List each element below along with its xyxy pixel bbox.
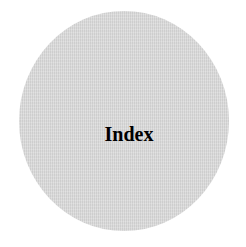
index-circle-badge: Index xyxy=(19,11,229,231)
index-label: Index xyxy=(105,123,154,146)
